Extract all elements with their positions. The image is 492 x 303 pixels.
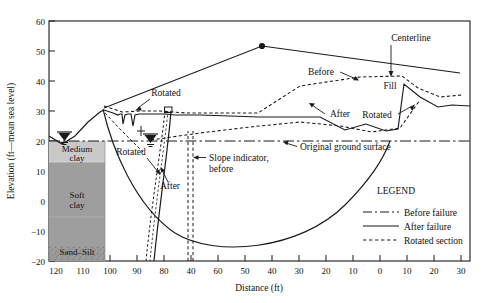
x-tick-label-11: 10 [349,266,359,276]
y-tick-label-neg20: −20 [31,257,46,267]
x-tick-label-4: 80 [160,266,170,276]
legend-item-rotated-section: Rotated section [363,236,463,246]
legend: LEGEND Before failure After failure Rota… [363,186,463,246]
before-failure-crest-line [104,46,460,108]
annotation-rotated-top: Rotated [151,88,181,98]
legend-title: LEGEND [377,186,415,196]
annotation-after-mid: After [160,181,181,191]
x-tick-group [56,255,461,261]
x-tick-label-5: 40 [187,266,197,276]
x-tick-label-1: 110 [76,266,90,276]
soil-label-soft-clay-line1: Soft [69,190,85,200]
rotated-section-lower-dotted [151,100,420,140]
x-tick-label-8: 40 [268,266,278,276]
annotation-rotated-right: Rotated [362,110,392,120]
legend-item-before-failure: Before failure [363,208,457,218]
soil-label-soft-clay-line2: clay [70,200,85,210]
figure-container: 60 50 40 30 20 10 0 −10 −20 Elevation (f… [0,0,492,303]
annotation-original-ground-surface: Original ground surface [300,142,391,152]
x-tick-label-15: 30 [457,266,467,276]
soil-profile-column: Medium clay Soft clay Sand–Silt [49,141,105,261]
x-tick-label-9: 30 [295,266,305,276]
annotation-after-right: After [330,109,351,119]
x-tick-label-14: 20 [430,266,440,276]
soil-label-medium-clay-line2: clay [70,153,85,163]
y-tick-label-neg10: −10 [31,227,46,237]
x-tick-label-12: 0 [378,266,383,276]
y-tick-label-30: 30 [36,107,46,117]
annotation-slope-indicator-line1: Slope indicator, [209,153,269,163]
after-failure-left-ground [49,110,104,144]
annotation-slope-indicator-line2: before [209,164,233,174]
legend-label-after-failure: After failure [404,222,451,232]
y-axis-label: Elevation (ft—mean sea level) [6,83,17,199]
x-tick-label-6: 60 [214,266,224,276]
x-tick-label-0: 120 [49,266,63,276]
annotation-centerline: Centerline [391,33,431,43]
x-tick-label-13: 10 [403,266,413,276]
legend-label-before-failure: Before failure [404,208,457,218]
y-tick-label-60: 60 [36,17,46,27]
y-tick-label-0: 0 [41,197,46,207]
y-tick-label-20: 20 [36,137,46,147]
annotation-before: Before [308,67,334,77]
water-table-symbol-mid [137,126,158,147]
y-tick-label-40: 40 [36,77,46,87]
slope-indicator-arrowhead [193,155,199,160]
soil-label-sand-silt: Sand–Silt [59,247,95,257]
annotations: Centerline Before Fill After Rotated Rot… [116,33,431,191]
before-leader [340,72,356,79]
annotation-rotated-left: Rotated [116,147,146,157]
y-axis: 60 50 40 30 20 10 0 −10 −20 Elevation (f… [6,17,55,267]
cross-section-diagram: 60 50 40 30 20 10 0 −10 −20 Elevation (f… [0,0,492,303]
legend-label-rotated-section: Rotated section [404,236,463,246]
legend-item-after-failure: After failure [363,222,451,232]
annotation-fill: Fill [383,81,397,91]
x-tick-label-7: 50 [241,266,251,276]
x-tick-label-10: 20 [322,266,332,276]
x-tick-label-2: 100 [103,266,117,276]
y-tick-label-10: 10 [36,167,46,177]
y-tick-label-50: 50 [36,47,46,57]
crest-apex-marker [259,43,265,49]
rotated-left-leader [147,158,158,172]
x-axis-label: Distance (ft) [235,283,283,294]
x-tick-label-3: 90 [133,266,143,276]
after-right-leader [312,105,325,114]
